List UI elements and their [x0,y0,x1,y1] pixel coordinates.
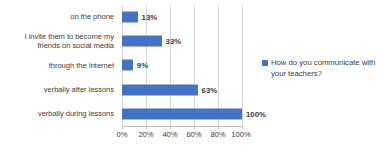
x-axis-line [122,126,243,127]
category-label-internet: through the Internet [49,61,118,70]
x-tick-0 [122,126,123,129]
bar-band: 100% [122,102,242,126]
category-band: on the phone [0,5,118,29]
bar-after-lessons[interactable] [122,84,198,95]
category-label-social-media: I invite them to become my friends on so… [25,32,118,51]
bar-value-social-media: 33% [166,37,182,46]
bar-on-the-phone[interactable] [122,12,138,23]
x-tick-40 [170,126,171,129]
x-tick-80 [218,126,219,129]
x-tick-label-100: 100% [231,130,250,139]
x-axis-tick-labels: 0% 20% 40% 60% 80% 100% [122,130,242,142]
bar-internet[interactable] [122,60,133,71]
x-tick-label-80: 80% [210,130,225,139]
bar-band: 63% [122,78,242,102]
bar-social-media[interactable] [122,36,162,47]
bar-band: 9% [122,53,242,77]
legend[interactable]: How do you communicate with your teacher… [262,58,388,79]
bar-value-internet: 9% [137,61,148,70]
bar-value-on-the-phone: 13% [142,13,158,22]
category-band: through the Internet [0,53,118,77]
x-tick-100 [242,126,243,129]
bar-during-lessons[interactable] [122,108,242,119]
gridline-100 [242,5,243,126]
bar-value-during-lessons: 100% [246,109,266,118]
category-label-during-lessons: verbally during lessons [38,109,118,118]
plot-area: 13% 33% 9% 63% 100% [122,5,242,126]
x-tick-label-20: 20% [138,130,153,139]
x-tick-60 [194,126,195,129]
x-tick-label-60: 60% [186,130,201,139]
category-label-on-the-phone: on the phone [70,12,118,21]
category-band: verbally after lessons [0,78,118,102]
x-tick-label-40: 40% [162,130,177,139]
category-band: verbally during lessons [0,102,118,126]
x-tick-20 [146,126,147,129]
category-band: I invite them to become my friends on so… [0,29,118,53]
category-axis: on the phone I invite them to become my … [0,5,118,126]
legend-color-swatch-icon [262,60,268,66]
bar-band: 13% [122,5,242,29]
bar-chart: on the phone I invite them to become my … [0,0,392,154]
bar-value-after-lessons: 63% [202,85,218,94]
bar-band: 33% [122,29,242,53]
category-label-after-lessons: verbally after lessons [44,85,118,94]
x-tick-label-0: 0% [117,130,128,139]
legend-label: How do you communicate with your teacher… [271,58,388,79]
